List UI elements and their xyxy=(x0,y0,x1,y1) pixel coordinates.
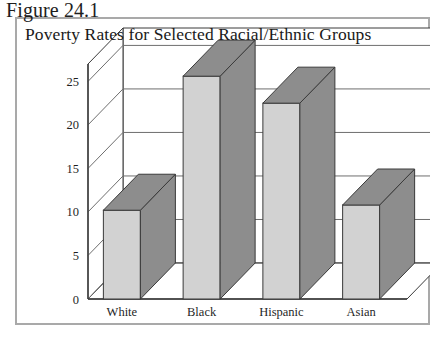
chart-title: Poverty Rates for Selected Racial/Ethnic… xyxy=(25,24,371,45)
y-axis-tick-labels-group: 0510152025 xyxy=(67,75,80,307)
bar-front-face xyxy=(183,76,220,299)
bar-hispanic xyxy=(263,67,335,299)
bar-side-face xyxy=(300,67,335,299)
bar-front-face xyxy=(263,103,300,299)
bar-side-face xyxy=(220,40,255,299)
x-category-label: Asian xyxy=(347,305,377,319)
x-category-label: Hispanic xyxy=(259,305,304,319)
x-category-label: White xyxy=(107,305,138,319)
y-tick-label: 10 xyxy=(67,205,80,219)
bar-front-face xyxy=(103,210,140,299)
bar-black xyxy=(183,40,255,299)
y-tick-label: 25 xyxy=(67,75,80,89)
y-tick-label: 0 xyxy=(73,293,79,307)
figure-container: Figure 24.1 Poverty Rates for Selected R… xyxy=(0,0,443,344)
bar-front-face xyxy=(343,205,380,299)
y-tick-label: 20 xyxy=(67,118,80,132)
bar-chart-plot: 0510152025 WhiteBlackHispanicAsian xyxy=(15,17,430,325)
y-tick-label: 15 xyxy=(67,162,80,176)
figure-number-caption: Figure 24.1 xyxy=(6,0,99,22)
x-category-label: Black xyxy=(187,305,217,319)
y-tick-label: 5 xyxy=(73,249,79,263)
x-axis-category-labels-group: WhiteBlackHispanicAsian xyxy=(107,305,377,319)
